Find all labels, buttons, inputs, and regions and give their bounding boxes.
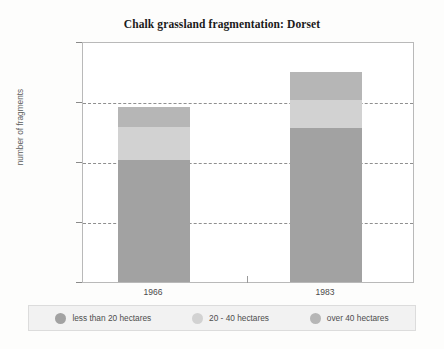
legend-label-less-than-20: less than 20 hectares bbox=[72, 313, 151, 323]
chart-title: Chalk grassland fragmentation: Dorset bbox=[0, 18, 444, 30]
bar-1983[interactable] bbox=[290, 72, 362, 282]
legend-label-20-40: 20 - 40 hectares bbox=[209, 313, 269, 323]
plot-inner bbox=[83, 43, 413, 282]
plot-area bbox=[82, 42, 414, 283]
bar-1966[interactable] bbox=[118, 107, 190, 282]
bar-1983-segment-20-40 bbox=[290, 100, 362, 128]
bar-1966-segment-less-than-20 bbox=[118, 160, 190, 282]
legend-swatch-icon-less-than-20 bbox=[55, 313, 66, 324]
bar-1983-segment-over-40 bbox=[290, 72, 362, 100]
bar-1983-segment-less-than-20 bbox=[290, 128, 362, 282]
x-tick-label-1966: 1966 bbox=[98, 287, 208, 297]
legend-swatch-icon-over-40 bbox=[310, 313, 321, 324]
legend-label-over-40: over 40 hectares bbox=[327, 313, 389, 323]
legend-item-over-40-hectares[interactable]: over 40 hectares bbox=[310, 313, 389, 324]
chart-container: Chalk grassland fragmentation: Dorset nu… bbox=[0, 0, 444, 349]
bar-1966-segment-20-40 bbox=[118, 127, 190, 161]
gridline-150 bbox=[83, 103, 413, 104]
x-tick-label-1983: 1983 bbox=[270, 287, 380, 297]
legend-swatch-icon-20-40 bbox=[192, 313, 203, 324]
chart-legend: less than 20 hectares 20 - 40 hectares o… bbox=[28, 305, 416, 331]
x-axis-mid-tick bbox=[247, 276, 248, 283]
legend-item-20-40-hectares[interactable]: 20 - 40 hectares bbox=[192, 313, 269, 324]
legend-item-less-than-20-hectares[interactable]: less than 20 hectares bbox=[55, 313, 151, 324]
y-axis-title: number of fragments bbox=[15, 67, 25, 187]
bar-1966-segment-over-40 bbox=[118, 107, 190, 126]
